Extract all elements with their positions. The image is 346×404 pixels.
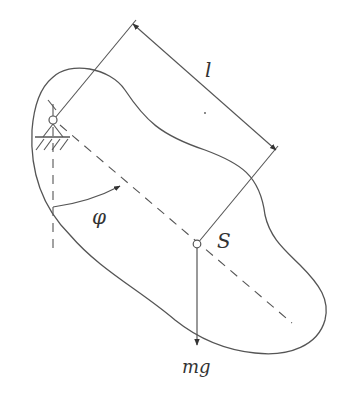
pivot-point [49,116,57,124]
rigid-body-outline [32,68,327,354]
length-label: l [205,58,211,82]
length-dimension-line [133,24,276,150]
angle-arc [53,186,120,207]
center-of-mass-point [193,240,201,248]
gravity-force-label: mg [182,356,211,377]
pendulum-diagram: l φ S mg [0,0,346,404]
stray-dot [204,112,206,114]
center-of-mass-label: S [217,229,231,253]
angle-label: φ [92,205,106,229]
extension-line-center [197,146,278,244]
fixed-support-icon [35,100,70,150]
